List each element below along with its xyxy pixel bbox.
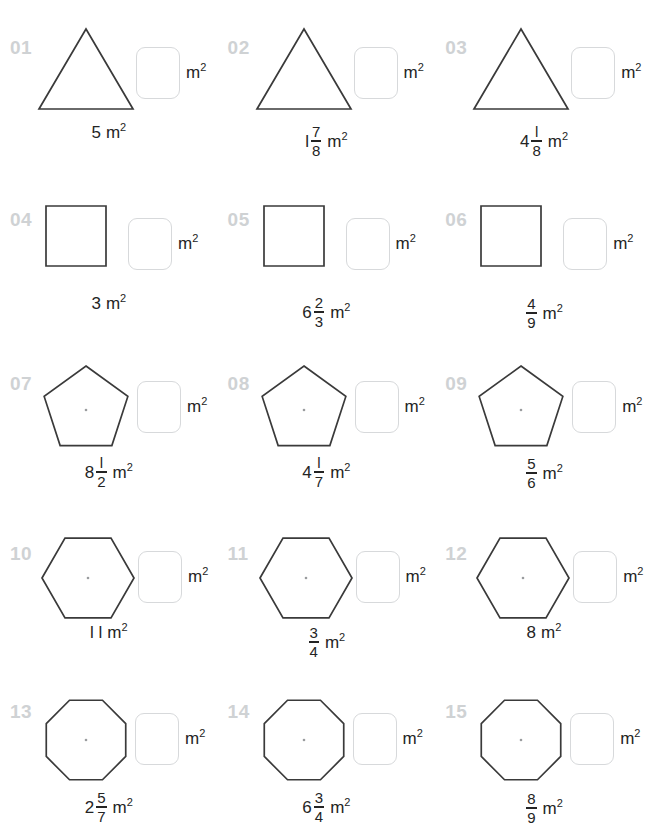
area-unit-label: m2 xyxy=(106,124,126,141)
whole-number: 8 xyxy=(85,464,94,481)
answer-input-09[interactable] xyxy=(572,381,616,433)
unit-text: m xyxy=(113,798,127,817)
answer-input-14[interactable] xyxy=(353,713,397,765)
triangle-figure xyxy=(256,28,352,110)
unit-exponent: 2 xyxy=(121,621,127,633)
fraction: 57 xyxy=(96,790,106,824)
problem-row: 10m2l lm211m234m212m28m2 xyxy=(0,515,653,680)
answer-input-02[interactable] xyxy=(354,47,398,99)
fraction-numerator: 5 xyxy=(526,456,536,471)
answer-unit-label: m2 xyxy=(187,398,207,415)
unit-text: m xyxy=(327,132,341,151)
unit-exponent: 2 xyxy=(555,621,561,633)
answer-unit-label: m2 xyxy=(404,64,424,81)
fraction-numerator: 3 xyxy=(314,790,324,805)
problem-number: 02 xyxy=(228,38,250,57)
answer-input-13[interactable] xyxy=(135,713,179,765)
given-area-label: 257m2 xyxy=(0,790,218,824)
problem-number: 11 xyxy=(228,544,249,563)
answer-input-11[interactable] xyxy=(356,551,400,603)
problem-number: 12 xyxy=(445,544,467,563)
unit-exponent: 2 xyxy=(200,61,206,73)
fraction: 34 xyxy=(314,790,324,824)
unit-text: m xyxy=(330,303,344,322)
answer-unit-label: m2 xyxy=(406,568,426,585)
unit-text: m xyxy=(620,729,634,748)
unit-exponent: 2 xyxy=(419,395,425,407)
answer-input-08[interactable] xyxy=(355,381,399,433)
problem-item-04: 04m23m2 xyxy=(0,170,218,340)
answer-unit-label: m2 xyxy=(178,235,198,252)
triangle-figure xyxy=(38,28,134,110)
given-area-label: 89m2 xyxy=(435,790,653,825)
problem-item-08: 08m24l7m2 xyxy=(218,340,436,515)
area-value: 3m2 xyxy=(91,295,126,312)
fraction-numerator: 5 xyxy=(96,790,106,805)
problem-number: 01 xyxy=(10,38,32,57)
unit-text: m xyxy=(106,123,120,142)
answer-unit-label: m2 xyxy=(620,730,640,747)
unit-text: m xyxy=(613,234,627,253)
fraction-denominator: 2 xyxy=(96,474,106,489)
problem-row: 04m23m205m2623m206m249m2 xyxy=(0,170,653,340)
area-value: 89m2 xyxy=(525,791,563,825)
answer-input-10[interactable] xyxy=(138,551,182,603)
fraction-denominator: 3 xyxy=(314,314,324,329)
problem-item-05: 05m2623m2 xyxy=(218,170,436,340)
area-unit-label: m2 xyxy=(543,800,563,817)
octagon-figure xyxy=(260,696,348,784)
answer-unit-label: m2 xyxy=(613,235,633,252)
unit-text: m xyxy=(113,463,127,482)
unit-exponent: 2 xyxy=(634,727,640,739)
given-area-label: 634m2 xyxy=(218,790,436,824)
unit-text: m xyxy=(188,567,202,586)
answer-unit-label: m2 xyxy=(396,235,416,252)
fraction: 49 xyxy=(526,296,536,330)
fraction-denominator: 6 xyxy=(526,475,536,490)
problem-row: 13m2257m214m2634m215m289m2 xyxy=(0,680,653,831)
unit-exponent: 2 xyxy=(199,727,205,739)
unit-exponent: 2 xyxy=(562,130,568,142)
unit-text: m xyxy=(396,234,410,253)
octagon-figure xyxy=(477,696,565,784)
unit-exponent: 2 xyxy=(344,461,350,473)
answer-input-03[interactable] xyxy=(571,47,615,99)
answer-input-05[interactable] xyxy=(346,218,390,270)
area-unit-label: m2 xyxy=(330,464,350,481)
unit-text: m xyxy=(106,294,120,313)
fraction-numerator: 8 xyxy=(526,791,536,806)
unit-exponent: 2 xyxy=(420,565,426,577)
answer-input-15[interactable] xyxy=(570,713,614,765)
given-area-label: 4l8m2 xyxy=(435,124,653,158)
fraction-denominator: 9 xyxy=(526,315,536,330)
problem-number: 05 xyxy=(228,210,250,229)
unit-text: m xyxy=(405,397,419,416)
given-area-label: 56m2 xyxy=(435,455,653,490)
answer-unit-label: m2 xyxy=(185,730,205,747)
problem-number: 06 xyxy=(445,210,467,229)
area-unit-label: m2 xyxy=(107,624,127,641)
answer-input-04[interactable] xyxy=(128,218,172,270)
fraction-denominator: 7 xyxy=(96,809,106,824)
problem-item-01: 01m25m2 xyxy=(0,0,218,170)
area-unit-label: m2 xyxy=(106,295,126,312)
area-value: 56m2 xyxy=(525,456,563,490)
answer-input-06[interactable] xyxy=(563,218,607,270)
unit-exponent: 2 xyxy=(410,232,416,244)
answer-unit-label: m2 xyxy=(621,64,641,81)
unit-exponent: 2 xyxy=(344,301,350,313)
problem-number: 14 xyxy=(228,702,250,721)
answer-input-12[interactable] xyxy=(573,551,617,603)
fraction: 89 xyxy=(526,791,536,825)
answer-input-07[interactable] xyxy=(137,381,181,433)
problem-item-09: 09m256m2 xyxy=(435,340,653,515)
unit-text: m xyxy=(403,729,417,748)
area-value: 5m2 xyxy=(91,124,126,141)
area-unit-label: m2 xyxy=(541,624,561,641)
answer-unit-label: m2 xyxy=(186,64,206,81)
answer-input-01[interactable] xyxy=(136,47,180,99)
unit-text: m xyxy=(330,798,344,817)
whole-number: 4 xyxy=(520,133,529,150)
whole-number: 6 xyxy=(302,799,311,816)
problem-number: 13 xyxy=(10,702,32,721)
